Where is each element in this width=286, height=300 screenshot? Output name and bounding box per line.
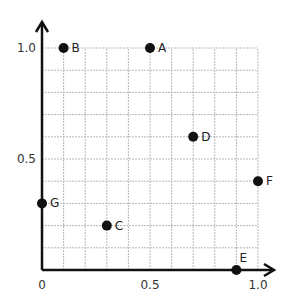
x-tick-label: 0.5 — [140, 278, 159, 292]
grid-lines — [42, 48, 258, 270]
point-label: G — [50, 196, 59, 210]
tick-labels: 00.51.00.51.0 — [17, 41, 268, 292]
data-point-f: F — [253, 174, 273, 188]
y-tick-label: 0.5 — [17, 152, 36, 166]
data-points: ABCDEFG — [37, 41, 273, 275]
point-label: D — [201, 130, 210, 144]
axes — [36, 22, 274, 276]
point-label: C — [115, 219, 123, 233]
point-marker — [231, 265, 241, 275]
point-marker — [59, 43, 69, 53]
point-label: F — [266, 174, 273, 188]
x-tick-label: 1.0 — [248, 278, 267, 292]
scatter-chart: 00.51.00.51.0 ABCDEFG — [0, 0, 286, 300]
point-label: B — [72, 41, 80, 55]
point-label: E — [239, 251, 247, 265]
point-marker — [37, 198, 47, 208]
point-marker — [253, 176, 263, 186]
point-marker — [188, 132, 198, 142]
data-point-e: E — [231, 251, 247, 275]
point-marker — [102, 221, 112, 231]
point-marker — [145, 43, 155, 53]
y-tick-label: 1.0 — [17, 41, 36, 55]
point-label: A — [158, 41, 167, 55]
x-tick-label: 0 — [38, 278, 46, 292]
